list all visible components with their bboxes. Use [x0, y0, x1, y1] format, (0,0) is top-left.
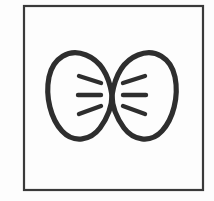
background-plate [0, 0, 214, 201]
bow-tie-illustration: Bow Tie Line Icon [0, 0, 214, 201]
image-canvas: Bow Tie Line Icon bow-tie [0, 0, 214, 201]
